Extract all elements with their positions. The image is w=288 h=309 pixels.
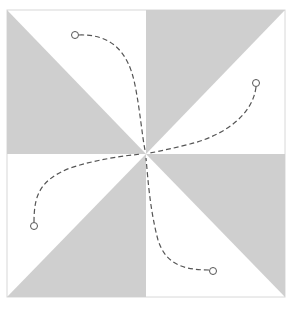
pinwheel-diagram [0,0,288,309]
stitch-start-circle-bottom-right [210,268,217,275]
stitch-start-circle-top-right [253,80,260,87]
stitch-start-circle-top-left [72,32,79,39]
stitch-start-circle-bottom-left [31,223,38,230]
